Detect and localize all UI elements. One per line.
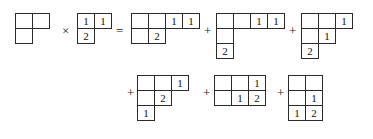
plus-operator-5: + bbox=[277, 86, 284, 99]
tableau-cell-2: 2 bbox=[216, 43, 234, 59]
tableau-row: 2 bbox=[78, 29, 95, 44]
tableau-cell-empty bbox=[148, 13, 166, 29]
tableau-cell-1: 1 bbox=[171, 75, 189, 91]
tableau-row: 1 bbox=[289, 91, 323, 106]
tableau-row: 2 bbox=[217, 44, 234, 59]
tableau-row: 1 bbox=[302, 29, 336, 44]
tableau-row bbox=[289, 76, 323, 91]
tableau-row: 11 bbox=[78, 14, 112, 29]
tableau-cell-1: 1 bbox=[318, 28, 336, 44]
tableau-cell-empty bbox=[131, 28, 149, 44]
tableau-cell-empty bbox=[288, 75, 306, 91]
equals-operator: = bbox=[116, 24, 123, 37]
tableau-row: 2 bbox=[138, 91, 172, 106]
tableau-row: 1 bbox=[138, 76, 189, 91]
tableau-row: 2 bbox=[132, 29, 166, 44]
tableau-cell-1: 1 bbox=[248, 75, 266, 91]
tableau-cell-1: 1 bbox=[250, 13, 268, 29]
tableau-row: 12 bbox=[215, 91, 266, 106]
tableau-cell-empty bbox=[154, 75, 172, 91]
result-term-3: 112 bbox=[302, 14, 353, 59]
tableau-cell-1: 1 bbox=[231, 90, 249, 106]
plus-operator-2: + bbox=[289, 24, 296, 37]
tableau-cell-1: 1 bbox=[182, 13, 200, 29]
tableau-cell-1: 1 bbox=[335, 13, 353, 29]
tableau-cell-empty bbox=[318, 13, 336, 29]
tableau-cell-empty bbox=[214, 75, 232, 91]
tableau-cell-empty bbox=[305, 75, 323, 91]
tableau-row: 1 bbox=[302, 14, 353, 29]
tableau-row bbox=[16, 29, 33, 44]
right-factor-tableau: 112 bbox=[78, 14, 112, 44]
tableau-cell-empty bbox=[214, 90, 232, 106]
tableau-cell-empty bbox=[231, 75, 249, 91]
tableau-cell-2: 2 bbox=[305, 105, 323, 121]
tableau-cell-1: 1 bbox=[305, 90, 323, 106]
tableaux-equation: ×112=112+112+112+121+112+112 bbox=[0, 0, 373, 139]
tableau-cell-2: 2 bbox=[77, 28, 95, 44]
times-operator: × bbox=[62, 24, 69, 37]
tableau-cell-empty bbox=[15, 13, 33, 29]
tableau-cell-2: 2 bbox=[148, 28, 166, 44]
tableau-cell-empty bbox=[288, 90, 306, 106]
tableau-cell-2: 2 bbox=[301, 43, 319, 59]
tableau-cell-empty bbox=[216, 28, 234, 44]
tableau-cell-2: 2 bbox=[154, 90, 172, 106]
tableau-cell-1: 1 bbox=[77, 13, 95, 29]
tableau-row: 12 bbox=[289, 106, 323, 121]
result-term-4: 121 bbox=[138, 76, 189, 121]
tableau-cell-1: 1 bbox=[288, 105, 306, 121]
result-term-2: 112 bbox=[217, 14, 285, 59]
tableau-row: 2 bbox=[302, 44, 319, 59]
tableau-row: 11 bbox=[132, 14, 200, 29]
tableau-cell-empty bbox=[301, 13, 319, 29]
tableau-cell-empty bbox=[137, 75, 155, 91]
left-factor-shape bbox=[16, 14, 50, 44]
tableau-cell-empty bbox=[301, 28, 319, 44]
tableau-cell-empty bbox=[233, 13, 251, 29]
plus-operator-1: + bbox=[204, 24, 211, 37]
tableau-cell-2: 2 bbox=[248, 90, 266, 106]
tableau-cell-empty bbox=[137, 90, 155, 106]
result-term-1: 112 bbox=[132, 14, 200, 44]
tableau-row bbox=[217, 29, 234, 44]
tableau-cell-1: 1 bbox=[137, 105, 155, 121]
tableau-cell-empty bbox=[216, 13, 234, 29]
tableau-cell-1: 1 bbox=[267, 13, 285, 29]
tableau-cell-empty bbox=[15, 28, 33, 44]
plus-operator-3: + bbox=[127, 86, 134, 99]
tableau-cell-empty bbox=[131, 13, 149, 29]
tableau-cell-1: 1 bbox=[94, 13, 112, 29]
result-term-6: 112 bbox=[289, 76, 323, 121]
plus-operator-4: + bbox=[203, 86, 210, 99]
tableau-row: 11 bbox=[217, 14, 285, 29]
tableau-row: 1 bbox=[215, 76, 266, 91]
tableau-row: 1 bbox=[138, 106, 155, 121]
tableau-cell-empty bbox=[32, 13, 50, 29]
tableau-row bbox=[16, 14, 50, 29]
tableau-cell-1: 1 bbox=[165, 13, 183, 29]
result-term-5: 112 bbox=[215, 76, 266, 106]
